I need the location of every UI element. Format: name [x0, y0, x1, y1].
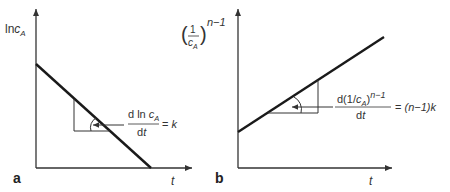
panel-b-slope-equation: d(1/cA)n−1 dt = (n−1)k [335, 90, 436, 121]
panel-b-x-label: t [369, 174, 373, 188]
svg-text:d ln cA: d ln cA [128, 108, 159, 123]
panel-b-letter: b [215, 170, 224, 186]
panel-b-angle-arc [294, 97, 301, 113]
svg-text:n−1: n−1 [207, 16, 226, 28]
panel-a: lncA d ln cA dt = k t a [5, 9, 192, 188]
panel-a-x-label: t [171, 174, 175, 188]
svg-text:dt: dt [137, 126, 147, 138]
panel-b-y-label: ( 1 cA ) n−1 [181, 16, 226, 50]
svg-text:dt: dt [356, 109, 366, 121]
panel-a-slope-equation: d ln cA dt = k [128, 108, 177, 138]
svg-text:= (n−1)k: = (n−1)k [395, 101, 436, 113]
kinetics-figure: lncA d ln cA dt = k t a [0, 0, 450, 192]
svg-text:): ) [200, 23, 207, 45]
svg-text:d(1/cA)n−1: d(1/cA)n−1 [337, 90, 385, 108]
svg-text:(: ( [181, 23, 188, 45]
panel-b: ( 1 cA ) n−1 d(1/cA)n−1 dt = [181, 9, 436, 188]
panel-a-letter: a [13, 170, 21, 186]
svg-text:cA: cA [188, 37, 198, 50]
svg-text:= k: = k [162, 118, 177, 130]
svg-text:1: 1 [190, 24, 196, 35]
panel-a-y-label: lncA [5, 22, 26, 38]
